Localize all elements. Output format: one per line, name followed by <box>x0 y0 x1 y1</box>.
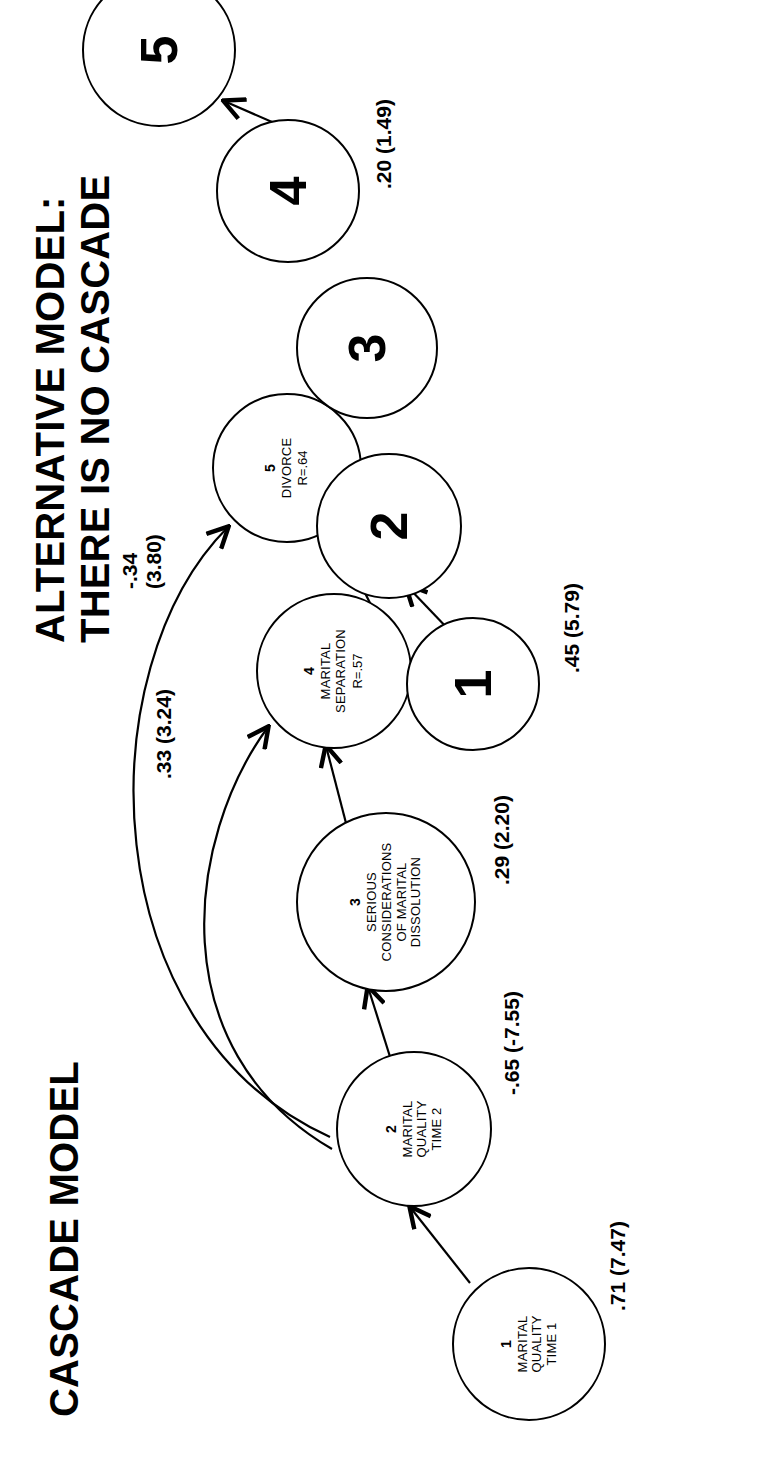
figure-page: CASCADE MODEL 1 MARITAL QUALITY TIME 1 2… <box>0 0 765 1479</box>
node-4-r-value: R=.57 <box>351 653 366 688</box>
alt-node-5[interactable]: 5 <box>82 0 236 127</box>
alt-node-2[interactable]: 2 <box>316 453 462 599</box>
edge-label-3-4: .29 (2.20) <box>490 795 514 885</box>
alt-node-3[interactable]: 3 <box>296 277 438 419</box>
alt-node-3-number: 3 <box>341 334 393 363</box>
node-2-number: 2 <box>384 1125 398 1133</box>
alt-node-4-number: 4 <box>262 177 314 206</box>
node-4-label: MARITAL SEPARATION <box>319 629 348 713</box>
edge-label-1-2: .71 (7.47) <box>606 1221 630 1311</box>
node-1-label: MARITAL QUALITY TIME 1 <box>516 1315 560 1372</box>
alt-edge-label-1-2: .45 (5.79) <box>560 583 584 673</box>
node-4-number: 4 <box>302 667 316 675</box>
node-1-number: 1 <box>499 1340 513 1348</box>
edge-1-2 <box>410 1207 470 1283</box>
node-3-serious-considerations[interactable]: 3 SERIOUS CONSIDERATIONS OF MARITAL DISS… <box>296 812 476 992</box>
cascade-model-title: CASCADE MODEL <box>42 1061 87 1417</box>
node-3-label: SERIOUS CONSIDERATIONS OF MARITAL DISSOL… <box>365 843 423 962</box>
edge-label-4-5: .33 (3.24) <box>152 689 176 779</box>
edge-2-3 <box>368 987 392 1063</box>
edge-label-2-3: -.65 (-7.55) <box>500 991 524 1095</box>
node-5-label: DIVORCE <box>280 438 295 499</box>
alt-node-4[interactable]: 4 <box>216 119 360 263</box>
node-3-number: 3 <box>348 898 362 906</box>
edge-3-4 <box>326 746 346 823</box>
alt-node-2-number: 2 <box>363 512 415 541</box>
edge-label-2-5: -.34 (3.80) <box>118 534 166 589</box>
figure-canvas: CASCADE MODEL 1 MARITAL QUALITY TIME 1 2… <box>0 0 765 1479</box>
alt-node-1-number: 1 <box>447 670 499 699</box>
alt-node-1[interactable]: 1 <box>406 617 540 751</box>
node-5-number: 5 <box>263 464 277 472</box>
node-1-marital-quality-time-1[interactable]: 1 MARITAL QUALITY TIME 1 <box>452 1267 606 1421</box>
node-5-r-value: R=.64 <box>296 450 311 485</box>
node-4-marital-separation[interactable]: 4 MARITAL SEPARATION R=.57 <box>256 593 412 749</box>
node-2-marital-quality-time-2[interactable]: 2 MARITAL QUALITY TIME 2 <box>336 1051 492 1207</box>
alt-edge-label-4-5: .20 (1.49) <box>372 99 396 189</box>
node-2-label: MARITAL QUALITY TIME 2 <box>401 1100 445 1157</box>
alternative-model-title: ALTERNATIVE MODEL: THERE IS NO CASCADE <box>28 175 118 643</box>
alt-node-5-number: 5 <box>133 36 185 65</box>
